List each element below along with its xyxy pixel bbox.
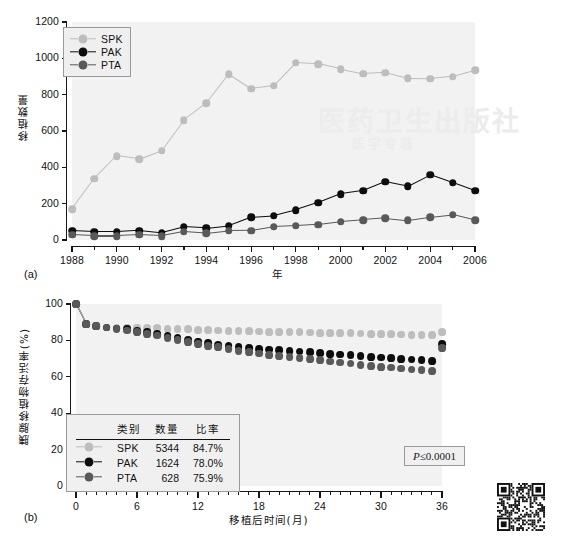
x-tick-minor xyxy=(340,246,341,250)
x-tick-minor xyxy=(370,491,371,495)
panel-a-x-axis-title: 年 xyxy=(272,266,284,281)
x-tick-minor xyxy=(258,491,259,495)
x-tick-minor xyxy=(309,491,310,495)
legend-item-pak: PAK xyxy=(70,45,123,58)
x-tick xyxy=(430,246,431,252)
legend-label: SPK xyxy=(101,33,123,45)
legend-item-spk: SPK xyxy=(70,32,123,45)
x-tick-minor xyxy=(279,491,280,495)
x-tick-minor xyxy=(391,491,392,495)
legend-col-key xyxy=(76,420,110,440)
x-tick-minor xyxy=(289,491,290,495)
x-tick-minor xyxy=(299,491,300,495)
x-tick-label: 24 xyxy=(295,500,345,512)
y-tick xyxy=(62,94,67,95)
x-tick-label: 2000 xyxy=(316,254,366,266)
x-tick xyxy=(206,246,207,252)
panel-a-legend: SPKPAKPTA xyxy=(63,27,131,77)
y-tick xyxy=(62,203,67,204)
x-tick xyxy=(441,491,442,498)
y-tick-label: 400 xyxy=(41,160,59,172)
legend-category: PTA xyxy=(110,470,148,485)
x-tick-minor xyxy=(441,491,442,495)
x-tick-label: 1996 xyxy=(226,254,276,266)
legend-row-pak: PAK162478.0% xyxy=(76,455,230,470)
watermark-secondary: 医学专著 xyxy=(352,133,416,152)
x-tick-minor xyxy=(431,491,432,495)
x-tick-minor xyxy=(360,491,361,495)
x-tick-label: 6 xyxy=(112,500,162,512)
legend-header-0: 类别 xyxy=(110,420,148,440)
x-tick xyxy=(251,246,252,252)
pvalue-symbol: P xyxy=(413,450,420,462)
legend-row-pta: PTA62875.9% xyxy=(76,470,230,485)
legend-row-spk: SPK534484.7% xyxy=(76,440,230,455)
y-tick-label: 800 xyxy=(41,88,59,100)
x-tick-label: 0 xyxy=(51,500,101,512)
legend-marker-pta-icon xyxy=(70,59,96,70)
y-tick-label: 40 xyxy=(51,406,63,418)
x-tick-label: 1990 xyxy=(92,254,142,266)
y-tick xyxy=(62,130,67,131)
x-tick-minor xyxy=(228,246,229,250)
y-tick xyxy=(66,303,71,304)
y-tick-label: 80 xyxy=(51,333,63,345)
legend-label: PTA xyxy=(101,59,121,71)
legend-marker-pta-icon xyxy=(76,470,110,485)
x-tick-label: 2004 xyxy=(405,254,455,266)
y-tick-label: 1000 xyxy=(35,51,59,63)
x-tick-label: 1998 xyxy=(271,254,321,266)
x-tick xyxy=(161,246,162,252)
x-tick-minor xyxy=(474,246,475,250)
panel-a-transplant-counts: 医药卫生出版社 医学专著 020040060080010001200198819… xyxy=(0,0,567,290)
x-tick-label: 18 xyxy=(234,500,284,512)
y-tick-label: 600 xyxy=(41,124,59,136)
panel-a-y-axis-title: 移植数量 xyxy=(15,93,30,141)
x-tick-label: 36 xyxy=(417,500,467,512)
x-tick-minor xyxy=(401,491,402,495)
legend-count: 628 xyxy=(148,470,186,485)
x-tick-minor xyxy=(411,491,412,495)
x-tick-minor xyxy=(139,246,140,250)
x-tick-minor xyxy=(183,246,184,250)
legend-count: 5344 xyxy=(148,440,186,455)
y-tick-label: 0 xyxy=(53,233,59,245)
x-tick-minor xyxy=(116,246,117,250)
y-tick-label: 60 xyxy=(51,370,63,382)
x-tick-minor xyxy=(295,246,296,250)
legend-rate: 75.9% xyxy=(186,470,230,485)
x-tick-minor xyxy=(273,246,274,250)
y-tick xyxy=(62,239,67,240)
x-tick xyxy=(197,491,198,498)
x-tick-label: 2002 xyxy=(360,254,410,266)
x-tick-minor xyxy=(421,491,422,495)
legend-marker-spk-icon xyxy=(76,440,110,455)
legend-category: PAK xyxy=(110,455,148,470)
x-tick xyxy=(71,246,72,252)
figure-root: 医药卫生出版社 医学专著 020040060080010001200198819… xyxy=(0,0,567,537)
x-tick-label: 1992 xyxy=(137,254,187,266)
x-tick-minor xyxy=(452,246,453,250)
x-tick xyxy=(319,491,320,498)
x-tick-label: 1988 xyxy=(47,254,97,266)
y-tick xyxy=(62,167,67,168)
y-tick-label: 0 xyxy=(57,479,63,491)
x-tick-minor xyxy=(71,246,72,250)
panel-b-label: (b) xyxy=(24,511,37,523)
legend-count: 1624 xyxy=(148,455,186,470)
x-tick xyxy=(340,246,341,252)
y-tick-label: 200 xyxy=(41,197,59,209)
x-tick xyxy=(474,246,475,252)
legend-header-2: 比率 xyxy=(186,420,230,440)
panel-a-label: (a) xyxy=(24,268,37,280)
x-tick xyxy=(116,246,117,252)
x-tick-minor xyxy=(407,246,408,250)
x-tick-minor xyxy=(318,246,319,250)
x-tick xyxy=(385,246,386,252)
legend-category: SPK xyxy=(110,440,148,455)
legend-marker-pak-icon xyxy=(76,455,110,470)
x-tick-minor xyxy=(319,491,320,495)
x-tick-label: 30 xyxy=(356,500,406,512)
panel-b-legend-table: 类别数量比率SPK534484.7%PAK162478.0%PTA62875.9… xyxy=(66,414,240,492)
x-tick-minor xyxy=(430,246,431,250)
